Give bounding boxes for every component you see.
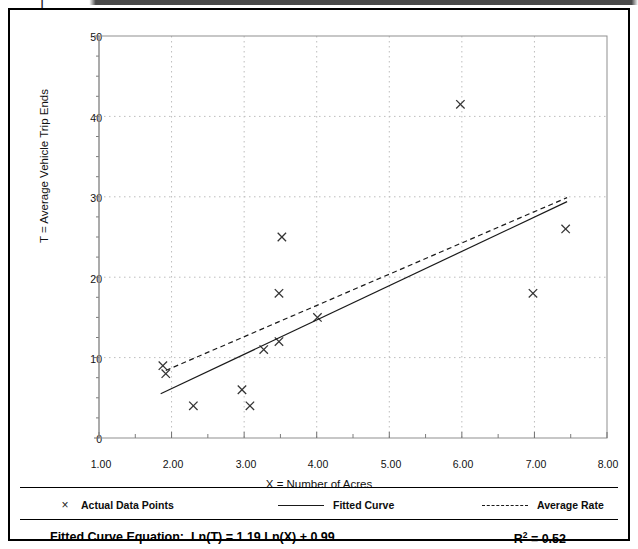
series-line-average-rate (166, 198, 567, 371)
legend-item-average-rate: Average Rate (482, 499, 604, 511)
data-point-marker (238, 386, 246, 394)
figure-frame: 0 10 20 30 40 50 1.00 2.00 3.00 4.00 5.0… (8, 8, 630, 541)
fitted-curve-equation: Fitted Curve Equation: Ln(T) = 1.19 Ln(X… (50, 530, 335, 544)
plot-border (99, 36, 607, 438)
legend-item-fitted-curve: Fitted Curve (278, 499, 394, 511)
chart-page: | 0 10 20 30 40 50 1.00 2.00 3.00 4.00 5… (0, 0, 638, 549)
data-point-marker (162, 369, 170, 377)
scan-artifact-bar (0, 0, 638, 5)
series-line-fitted-curve (161, 202, 567, 394)
data-point-marker (561, 225, 569, 233)
legend-label-fitted-curve: Fitted Curve (333, 499, 394, 511)
data-point-marker (313, 313, 321, 321)
legend-item-actual-data-points: × Actual Data Points (58, 499, 174, 511)
r2-prefix: R (514, 532, 523, 546)
data-point-marker (189, 402, 197, 410)
r-squared-value: R2 = 0.52 (514, 530, 566, 546)
data-point-marker (275, 289, 283, 297)
legend-label-actual-data-points: Actual Data Points (81, 499, 174, 511)
x-axis-title: X = Number of Acres (10, 478, 628, 490)
legend-label-average-rate: Average Rate (537, 499, 604, 511)
equation-row: Fitted Curve Equation: Ln(T) = 1.19 Ln(X… (20, 526, 638, 549)
solid-line-icon (278, 505, 324, 506)
data-point-marker (529, 289, 537, 297)
x-marker-icon: × (58, 500, 72, 510)
data-point-marker (246, 402, 254, 410)
plot-canvas (10, 10, 610, 470)
dashed-line-icon (482, 505, 528, 506)
r2-number: = 0.52 (527, 532, 566, 546)
data-point-marker (456, 100, 464, 108)
data-point-marker (278, 233, 286, 241)
legend-divider-top (20, 487, 618, 488)
data-point-marker (159, 361, 167, 369)
legend-divider-bottom (20, 519, 618, 520)
